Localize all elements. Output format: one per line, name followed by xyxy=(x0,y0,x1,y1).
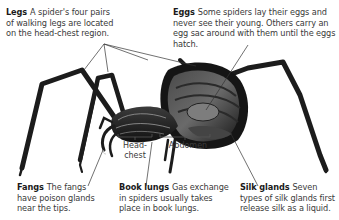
callout-legs: LegsA spider's four pairs of walking leg… xyxy=(6,7,116,39)
silk-glands-leader xyxy=(230,132,258,186)
legs-leader-2 xyxy=(104,44,108,72)
callout-eggs-text: Some spiders lay their eggs and never se… xyxy=(173,7,335,49)
callout-silk-glands: Silk glandsSeven types of silk glands fi… xyxy=(240,182,339,214)
callout-eggs: EggsSome spiders lay their eggs and neve… xyxy=(173,7,337,49)
callout-legs-title: Legs xyxy=(6,7,27,17)
callout-silk-glands-title: Silk glands xyxy=(240,182,289,192)
callout-fangs: FangsThe fangs have poison glands near t… xyxy=(17,182,99,214)
callout-eggs-title: Eggs xyxy=(173,7,195,17)
label-abdomen: Abdomen xyxy=(165,141,211,151)
callout-book-lungs-title: Book lungs xyxy=(119,182,169,192)
fangs-leader xyxy=(88,150,103,186)
legs-leader-1 xyxy=(84,44,104,70)
callout-book-lungs: Book lungsGas exchange in spiders usuall… xyxy=(119,182,235,214)
label-head-chest: Head- chest xyxy=(115,141,155,161)
callout-fangs-title: Fangs xyxy=(17,182,44,192)
label-head-chest-line1: Head- xyxy=(115,141,155,151)
legs-leader-3 xyxy=(104,44,148,60)
spider-abdomen xyxy=(160,63,248,149)
label-head-chest-line2: chest xyxy=(115,151,155,161)
